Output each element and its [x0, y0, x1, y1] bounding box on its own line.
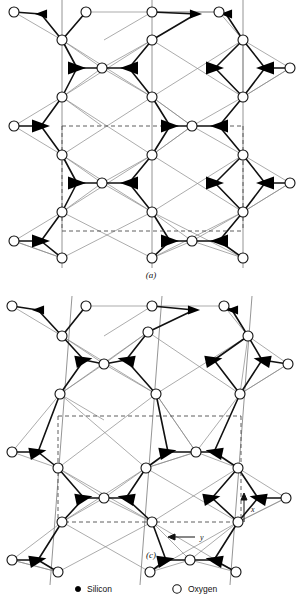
- y-axis-label: y: [199, 533, 204, 542]
- silicon-legend-icon: [75, 586, 80, 591]
- structure-svg: (a): [0, 0, 302, 603]
- x-axis-label: x: [250, 505, 255, 514]
- panel-a-caption: (a): [146, 270, 157, 280]
- silica-structure-figure: (a): [0, 0, 302, 603]
- panel-c-caption: (c): [146, 550, 156, 560]
- silicon-legend-label: Silicon: [87, 584, 112, 594]
- oxygen-legend-icon: [173, 585, 181, 593]
- oxygen-legend-label: Oxygen: [188, 584, 218, 594]
